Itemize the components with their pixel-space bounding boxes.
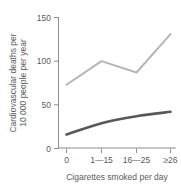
series-line-upper — [67, 34, 171, 85]
y-tick-label-0: 0 — [46, 144, 51, 154]
y-tick-label-100: 100 — [37, 56, 51, 66]
x-tick-label-1: 1—15 — [90, 155, 113, 165]
x-axis-ticks — [67, 149, 171, 154]
chart-figure: 0 50 100 150 0 1—15 16—25 ≥26 Cigarettes… — [0, 0, 181, 187]
x-axis-title: Cigarettes smoked per day — [66, 172, 168, 182]
y-axis-ticks — [54, 18, 59, 149]
x-tick-label-2: 16—25 — [123, 155, 151, 165]
x-tick-label-3: ≥26 — [163, 155, 177, 165]
y-axis-title-line1: Cardiovascular deaths per — [8, 33, 18, 132]
y-tick-label-50: 50 — [42, 100, 52, 110]
y-axis-title-line2: 10 000 people per year — [18, 39, 28, 127]
y-tick-label-150: 150 — [37, 13, 51, 23]
x-tick-label-0: 0 — [64, 155, 69, 165]
line-chart-svg: 0 50 100 150 0 1—15 16—25 ≥26 Cigarettes… — [0, 0, 181, 187]
series-line-lower — [67, 112, 171, 135]
